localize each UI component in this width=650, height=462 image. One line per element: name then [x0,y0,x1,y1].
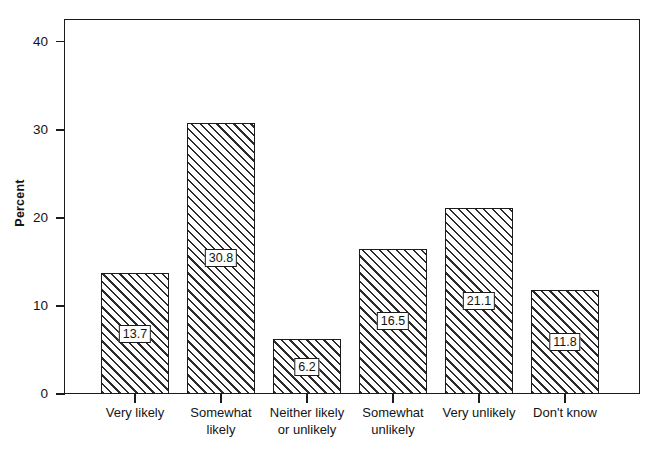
y-axis-tick-label: 40 [0,33,48,51]
x-axis-tick-mark [392,394,394,403]
bar-value-label: 6.2 [294,358,319,376]
y-axis-tick-label: 10 [0,297,48,315]
bar-value-label: 11.8 [549,333,580,351]
x-axis-tick-mark [478,394,480,403]
x-axis-label-line: Don't know [511,404,619,421]
x-axis-tick-mark [134,394,136,403]
y-axis-tick-mark [56,129,65,131]
x-axis-tick-mark [306,394,308,403]
y-axis-title: Percent [13,163,27,243]
y-axis-tick-label: 20 [0,209,48,227]
x-axis-tick-mark [564,394,566,403]
y-axis-tick-mark [56,217,65,219]
bar-value-label: 21.1 [463,292,495,310]
bar-value-label: 30.8 [205,249,237,267]
y-axis-tick-mark [56,393,65,395]
y-axis-tick-label: 30 [0,121,48,139]
x-axis-label: Don't know [511,404,619,421]
y-axis-tick-mark [56,305,65,307]
y-axis-tick-label: 0 [0,385,48,403]
x-axis-tick-mark [220,394,222,403]
x-axis-label-line: unlikely [339,421,447,438]
bar-value-label: 13.7 [119,325,151,343]
bar-value-label: 16.5 [377,312,409,330]
y-axis-tick-mark [56,41,65,43]
bar-chart: Percent 010203040 13.730.86.216.521.111.… [0,0,650,462]
